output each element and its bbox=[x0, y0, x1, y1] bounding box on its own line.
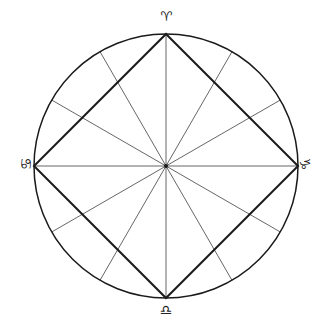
house-spoke bbox=[166, 166, 232, 280]
cancer-glyph-icon: ♋ bbox=[19, 156, 33, 172]
house-spoke bbox=[166, 166, 280, 232]
house-spoke bbox=[52, 100, 166, 166]
house-spoke bbox=[166, 100, 280, 166]
house-spoke bbox=[100, 166, 166, 280]
house-spoke bbox=[100, 52, 166, 166]
capricorn-glyph-icon: ♑ bbox=[298, 156, 312, 172]
libra-glyph-icon: ♎ bbox=[156, 303, 176, 317]
chart-wheel bbox=[0, 0, 329, 329]
house-spoke bbox=[52, 166, 166, 232]
center-point bbox=[164, 164, 168, 168]
aries-glyph-icon: ♈ bbox=[156, 10, 176, 23]
house-spoke bbox=[166, 52, 232, 166]
